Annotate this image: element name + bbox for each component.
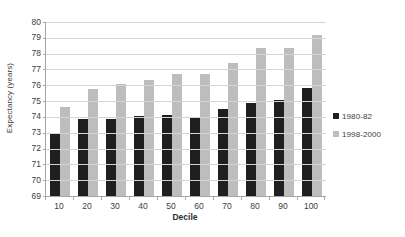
y-axis-title: Expectancy (years) <box>2 0 16 196</box>
y-axis-tickmark <box>43 85 46 86</box>
y-axis-tick-label: 73 <box>17 128 41 137</box>
y-axis-tickmark <box>43 164 46 165</box>
legend-swatch-icon <box>333 131 339 137</box>
x-axis-tick-label: 100 <box>297 201 325 211</box>
y-axis-tick-label: 74 <box>17 112 41 121</box>
gridline <box>46 101 326 102</box>
x-axis-tick-label: 80 <box>241 201 269 211</box>
plot-area <box>45 22 326 197</box>
y-axis-tick-label: 79 <box>17 33 41 42</box>
y-axis-tick-label: 70 <box>17 176 41 185</box>
y-axis-tick-label: 75 <box>17 97 41 106</box>
legend-item: 1980-82 <box>333 107 403 125</box>
y-axis-tickmark <box>43 149 46 150</box>
x-axis-tick-label: 40 <box>129 201 157 211</box>
x-axis-tickmark <box>297 197 298 200</box>
bar <box>78 119 88 196</box>
bar-group <box>46 22 74 196</box>
x-axis-tickmark <box>101 197 102 200</box>
y-axis-tickmark <box>43 180 46 181</box>
legend-item: 1998-2000 <box>333 125 403 143</box>
x-axis-tickmark <box>129 197 130 200</box>
gridline <box>46 164 326 165</box>
gridline <box>46 54 326 55</box>
y-axis-tick-label: 71 <box>17 160 41 169</box>
bar-group <box>158 22 186 196</box>
x-axis-tick-labels: 102030405060708090100 <box>45 197 325 211</box>
y-axis-tickmark <box>43 101 46 102</box>
bar-group <box>74 22 102 196</box>
y-axis-tickmark <box>43 133 46 134</box>
y-axis-tick-labels: 697071727374757677787980 <box>17 22 41 196</box>
bar <box>190 118 200 196</box>
x-axis-tickmark <box>73 197 74 200</box>
x-axis-tickmark <box>45 197 46 200</box>
gridline <box>46 180 326 181</box>
gridline <box>46 22 326 23</box>
bar <box>172 74 182 196</box>
bar-group <box>270 22 298 196</box>
x-axis-tickmark <box>241 197 242 200</box>
x-axis-tickmark <box>269 197 270 200</box>
x-axis-title: Decile <box>45 212 325 222</box>
legend-label: 1980-82 <box>342 112 372 121</box>
y-axis-tickmark <box>43 38 46 39</box>
x-axis-tick-label: 90 <box>269 201 297 211</box>
bars-layer <box>46 22 326 196</box>
gridline <box>46 117 326 118</box>
x-axis-tick-label: 70 <box>213 201 241 211</box>
bar <box>218 109 228 196</box>
y-axis-tickmark <box>43 54 46 55</box>
x-axis-tickmark <box>213 197 214 200</box>
bar-chart: Expectancy (years) 697071727374757677787… <box>0 0 405 237</box>
bar-group <box>214 22 242 196</box>
x-axis-tick-label: 50 <box>157 201 185 211</box>
gridline <box>46 85 326 86</box>
y-axis-tickmark <box>43 69 46 70</box>
x-axis-tick-label: 30 <box>101 201 129 211</box>
bar <box>106 119 116 196</box>
y-axis-tickmark <box>43 117 46 118</box>
x-axis-tickmark <box>324 197 325 200</box>
chart-legend: 1980-821998-2000 <box>333 107 403 143</box>
x-axis-tickmark <box>157 197 158 200</box>
y-axis-tick-label: 80 <box>17 18 41 27</box>
bar-group <box>298 22 326 196</box>
gridline <box>46 69 326 70</box>
legend-swatch-icon <box>333 113 339 119</box>
bar <box>200 74 210 196</box>
bar-group <box>130 22 158 196</box>
bar-group <box>242 22 270 196</box>
x-axis-tick-label: 10 <box>45 201 73 211</box>
bar-group <box>102 22 130 196</box>
y-axis-tick-label: 77 <box>17 65 41 74</box>
legend-label: 1998-2000 <box>342 130 381 139</box>
bar <box>312 35 322 196</box>
x-axis-tick-label: 20 <box>73 201 101 211</box>
bar <box>228 63 238 196</box>
bar <box>144 80 154 196</box>
gridline <box>46 133 326 134</box>
bar <box>134 116 144 196</box>
bar <box>162 115 172 196</box>
y-axis-tick-label: 76 <box>17 81 41 90</box>
gridline <box>46 38 326 39</box>
x-axis-tickmark <box>185 197 186 200</box>
y-axis-tick-label: 72 <box>17 144 41 153</box>
bar <box>60 107 70 196</box>
bar-group <box>186 22 214 196</box>
y-axis-tick-label: 69 <box>17 192 41 201</box>
y-axis-tick-label: 78 <box>17 49 41 58</box>
y-axis-tickmark <box>43 22 46 23</box>
x-axis-tick-label: 60 <box>185 201 213 211</box>
gridline <box>46 149 326 150</box>
